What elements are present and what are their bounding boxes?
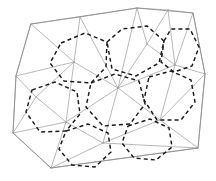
mesh-edge xyxy=(66,122,103,143)
mesh-edge xyxy=(74,17,80,62)
triangulation-edges xyxy=(13,8,205,168)
mesh-canvas xyxy=(0,0,216,181)
mesh-edge xyxy=(13,97,36,133)
mesh-edge xyxy=(118,44,147,88)
mesh-edge xyxy=(31,24,74,62)
dual-cell-right xyxy=(144,71,195,120)
dual-cell-upper-center xyxy=(107,26,164,76)
mesh-edge xyxy=(36,62,74,97)
mesh-edge xyxy=(66,62,74,122)
boundary-polygon xyxy=(13,8,205,168)
mesh-edge xyxy=(16,76,36,97)
mesh-edge xyxy=(103,120,160,143)
mesh-edge xyxy=(160,120,198,148)
mesh-edge xyxy=(175,13,193,65)
outer-boundary xyxy=(13,8,205,168)
mesh-figure xyxy=(0,0,216,181)
mesh-edge xyxy=(168,10,175,65)
mesh-edge xyxy=(103,143,198,148)
mesh-edge xyxy=(160,74,205,120)
dual-cell-upper-left xyxy=(50,33,107,83)
mesh-edge xyxy=(80,17,118,88)
mesh-edge xyxy=(16,62,74,76)
mesh-edge xyxy=(51,122,66,168)
mesh-edge xyxy=(118,88,160,120)
mesh-edge xyxy=(160,65,175,120)
mesh-edge xyxy=(118,65,175,88)
dual-cell-center xyxy=(86,74,145,126)
mesh-edge xyxy=(36,97,66,122)
